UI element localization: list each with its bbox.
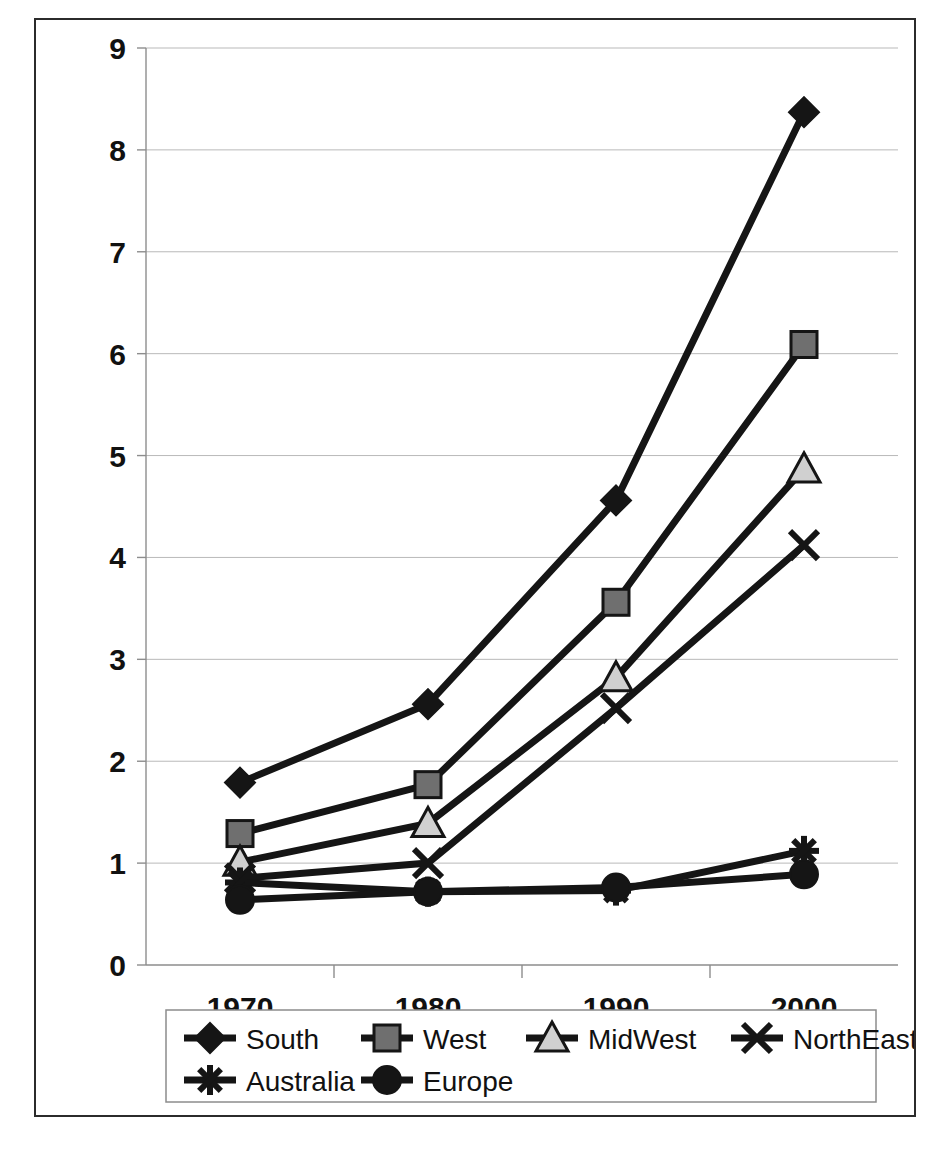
series-line-midwest <box>240 469 804 862</box>
series-line-northeast <box>240 545 804 878</box>
legend-entry-west[interactable]: West <box>361 1024 486 1055</box>
chart-legend: SouthWestMidWestNorthEastAustraliaEurope <box>166 1010 914 1102</box>
series-south-pt-2000-diamond-marker <box>789 97 819 127</box>
series-west-pt-1990-square-marker <box>603 589 629 615</box>
legend-label-northeast: NorthEast <box>793 1024 914 1055</box>
legend-west-square-marker <box>374 1025 400 1051</box>
legend-label-south: South <box>246 1024 319 1055</box>
series-europe-pt-1990-circle-marker <box>602 874 630 902</box>
series-west <box>227 331 817 846</box>
y-axis-label-8: 8 <box>109 134 126 167</box>
series-northeast <box>226 531 818 892</box>
series-south-pt-1970-diamond-marker <box>225 768 255 798</box>
y-axis-label-1: 1 <box>109 847 126 880</box>
y-axis-label-6: 6 <box>109 338 126 371</box>
series-europe-pt-2000-circle-marker <box>790 860 818 888</box>
series-northeast-pt-1990-x-marker <box>602 694 630 722</box>
legend-entry-midwest[interactable]: MidWest <box>526 1022 697 1055</box>
series-line-south <box>240 112 804 782</box>
series-line-west <box>240 344 804 833</box>
legend-label-australia: Australia <box>246 1066 355 1097</box>
series-europe-pt-1980-circle-marker <box>414 878 442 906</box>
legend-label-europe: Europe <box>423 1066 513 1097</box>
y-axis-label-5: 5 <box>109 440 126 473</box>
series-west-pt-1970-square-marker <box>227 821 253 847</box>
chart-frame: 01234567891970198019902000SouthWestMidWe… <box>34 18 916 1117</box>
y-axis-label-9: 9 <box>109 32 126 65</box>
series-west-pt-1980-square-marker <box>415 772 441 798</box>
y-axis-label-4: 4 <box>109 541 126 574</box>
y-axis-label-0: 0 <box>109 949 126 982</box>
legend-entry-europe[interactable]: Europe <box>361 1066 513 1097</box>
legend-entry-australia[interactable]: Australia <box>184 1065 355 1097</box>
y-axis-label-2: 2 <box>109 745 126 778</box>
legend-australia-asterisk-marker <box>195 1065 225 1095</box>
legend-label-west: West <box>423 1024 486 1055</box>
series-northeast-pt-2000-x-marker <box>790 531 818 559</box>
legend-label-midwest: MidWest <box>588 1024 697 1055</box>
y-axis-label-3: 3 <box>109 643 126 676</box>
y-axis-label-7: 7 <box>109 236 126 269</box>
series-europe-pt-1970-circle-marker <box>226 886 254 914</box>
series-midwest-pt-2000-triangle-marker <box>788 453 820 482</box>
chart-figure: 01234567891970198019902000SouthWestMidWe… <box>0 0 949 1160</box>
series-west-pt-2000-square-marker <box>791 331 817 357</box>
line-chart-plot: 01234567891970198019902000SouthWestMidWe… <box>36 20 914 1115</box>
legend-europe-circle-marker <box>373 1066 401 1094</box>
